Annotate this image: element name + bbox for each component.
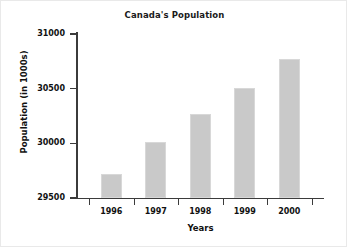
- x-axis-tick-label: 1999: [222, 207, 268, 216]
- y-axis-tick-label: 30000: [19, 138, 65, 147]
- x-axis-tick: [134, 198, 135, 205]
- y-axis-tick-label: 31000: [19, 29, 65, 38]
- bar-2000: [279, 59, 300, 198]
- x-axis-tick-label: 1997: [133, 207, 179, 216]
- bar-1998: [190, 114, 211, 198]
- y-axis-tick: [70, 33, 77, 34]
- bar-1997: [145, 142, 166, 198]
- x-axis-tick: [89, 198, 90, 205]
- bar-1999: [234, 88, 255, 198]
- x-axis-tick: [223, 198, 224, 205]
- x-axis-tick-label: 1996: [88, 207, 134, 216]
- x-axis-tick-label: 2000: [266, 207, 312, 216]
- y-axis-tick: [70, 143, 77, 144]
- chart-title: Canada's Population: [1, 10, 347, 20]
- bar-1996: [101, 174, 122, 198]
- y-axis-tick: [70, 197, 77, 198]
- y-axis-tick-label: 30500: [19, 84, 65, 93]
- y-axis-tick: [70, 88, 77, 89]
- x-axis-tick: [312, 198, 313, 205]
- x-axis-tick: [267, 198, 268, 205]
- x-axis-title: Years: [77, 223, 324, 233]
- y-axis-title: Population (in 1000s): [19, 27, 29, 177]
- y-axis-tick-label: 29500: [19, 193, 65, 202]
- x-axis-tick-label: 1998: [177, 207, 223, 216]
- chart-figure: Canada's Population Population (in 1000s…: [0, 0, 347, 247]
- plot-area: [77, 34, 324, 198]
- x-axis-tick: [178, 198, 179, 205]
